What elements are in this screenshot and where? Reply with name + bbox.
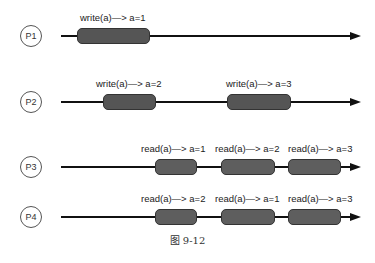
operation-bar [103,94,156,110]
operation-bar [221,159,275,175]
operation-label: read(a)—> a=3 [288,193,352,204]
operation-label: read(a)—> a=1 [141,143,205,154]
process-label-p4: P4 [20,206,42,228]
operation-label: read(a)—> a=2 [215,143,279,154]
operation-bar [155,209,197,225]
operation-label: write(a)—> a=1 [80,12,145,23]
operation-label: read(a)—> a=1 [215,193,279,204]
operation-bar [288,159,341,175]
operation-bar [155,159,197,175]
operation-label: read(a)—> a=3 [288,143,352,154]
operation-bar [288,209,341,225]
process-label-p1: P1 [20,25,42,47]
operation-bar [77,28,150,44]
arrow-head-icon [350,98,361,106]
operation-label: write(a)—> a=3 [226,78,291,89]
arrow-head-icon [350,163,361,171]
figure-caption: 图 9-12 [0,232,375,247]
operation-bar [221,209,275,225]
process-label-p2: P2 [20,91,42,113]
operation-label: write(a)—> a=2 [96,78,161,89]
operation-bar [227,94,291,110]
process-label-p3: P3 [20,156,42,178]
arrow-head-icon [350,213,361,221]
operation-label: read(a)—> a=2 [141,193,205,204]
arrow-head-icon [350,32,361,40]
